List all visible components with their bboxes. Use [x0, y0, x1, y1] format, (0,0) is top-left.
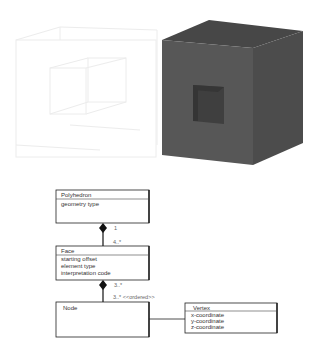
multiplicity-face: 4..* — [113, 239, 122, 245]
uml-class-vertex: Vertex x-coordinate y-coordinate z-coord… — [185, 303, 277, 333]
association-face-node: 3..* 3..* <<ordered>> — [99, 280, 155, 302]
figure: Polyhedron geometry type 1 4..* Face sta… — [0, 0, 319, 354]
face-attr-starting-offset: starting offset — [61, 256, 97, 262]
wireframe-cube — [16, 27, 157, 157]
multiplicity-polyhedron: 1 — [114, 225, 117, 231]
node-name: Node — [63, 305, 78, 311]
multiplicity-node: 3..* <<ordered>> — [113, 294, 155, 300]
uml-class-face: Face starting offset element type interp… — [56, 246, 149, 280]
face-attr-interpretation-code: interpretation code — [61, 270, 111, 276]
cube-side-face — [253, 31, 303, 165]
vertex-name: Vertex — [193, 305, 210, 311]
solid-cube — [162, 20, 303, 165]
face-attr-element-type: element type — [61, 263, 96, 269]
uml-class-node: Node — [56, 302, 149, 337]
polyhedron-attr-geometry-type: geometry type — [61, 201, 100, 207]
uml-class-polyhedron: Polyhedron geometry type — [56, 190, 149, 223]
face-name: Face — [61, 248, 75, 254]
polyhedron-name: Polyhedron — [61, 192, 91, 198]
vertex-attr-z: z-coordinate — [191, 324, 225, 330]
multiplicity-face-source: 3..* — [114, 282, 123, 288]
composition-diamond-icon — [99, 280, 107, 290]
composition-diamond-icon — [99, 223, 107, 233]
association-polyhedron-face: 1 4..* — [99, 223, 122, 246]
